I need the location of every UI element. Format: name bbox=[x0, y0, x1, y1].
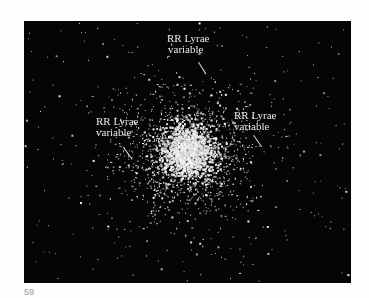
annotation-label-left: RR Lyrae variable bbox=[96, 116, 138, 138]
annotation-label-top: RR Lyrae variable bbox=[167, 33, 209, 55]
annotation-line2: variable bbox=[234, 121, 276, 132]
figure-number: 59 bbox=[24, 287, 34, 297]
annotation-line2: variable bbox=[168, 44, 209, 55]
annotation-label-right: RR Lyrae variable bbox=[234, 110, 276, 132]
annotation-line2: variable bbox=[96, 127, 138, 138]
star-field bbox=[24, 21, 351, 283]
star-cluster-photo: RR Lyrae variable RR Lyrae variable RR L… bbox=[24, 21, 351, 283]
